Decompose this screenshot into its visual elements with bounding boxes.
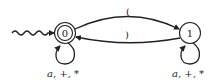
self-loop-1 <box>181 43 200 64</box>
self-loop-0 <box>56 43 75 64</box>
transition-0-to-1 <box>75 17 179 30</box>
state-1: 1 <box>180 23 201 44</box>
state-1-label: 1 <box>187 28 193 39</box>
self-loop-0-label: a, +, * <box>47 68 79 79</box>
automaton-diagram: 0 1 ( ) a, +, * a, +, * <box>0 0 215 82</box>
transition-0-to-1-label: ( <box>126 6 130 17</box>
state-0-label: 0 <box>62 28 68 39</box>
transition-1-to-0-label: ) <box>125 29 129 40</box>
state-0: 0 <box>55 23 76 44</box>
start-arrow <box>12 31 54 35</box>
self-loop-1-label: a, +, * <box>172 68 204 79</box>
